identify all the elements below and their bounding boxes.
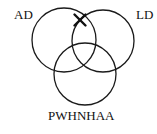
label-ld: LD (136, 7, 153, 22)
label-pwhnhaa: PWHNHAA (48, 108, 115, 123)
label-ad: AD (14, 7, 33, 22)
x-mark-icon (75, 15, 86, 26)
circle-ad (32, 8, 96, 72)
venn-diagram: AD LD PWHNHAA (0, 0, 157, 134)
circle-pwhnhaa (54, 43, 116, 105)
